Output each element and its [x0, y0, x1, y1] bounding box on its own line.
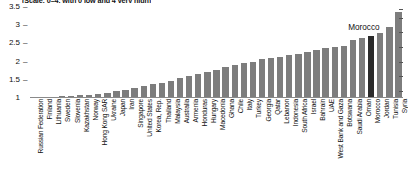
bar-tunisia: [386, 27, 392, 98]
bar-ghana: [222, 67, 228, 98]
annotation-morocco: Morocco: [348, 23, 379, 32]
y-axis-tick-mark: –: [23, 57, 27, 66]
x-axis-label: Hong Kong SAR: [101, 99, 108, 145]
plot-area: [30, 7, 403, 98]
x-axis-label: Qatar: [274, 99, 281, 115]
bar-honduras: [195, 74, 201, 98]
x-axis-label: United States: [146, 99, 153, 137]
y-axis-tick-mark: –: [23, 38, 27, 47]
y-axis-tick-label: 3: [0, 20, 20, 29]
bar-south-africa: [295, 54, 301, 98]
y-axis-tick-mark: –: [23, 20, 27, 29]
y-axis-tick-mark: –: [23, 2, 27, 11]
bar-qatar: [268, 58, 274, 98]
x-axis-label: Iran: [128, 99, 135, 110]
right-axis-tick-mark: [399, 91, 403, 92]
bar-bahrain: [313, 50, 319, 98]
bar-lebanon: [277, 57, 283, 98]
bar-jordan: [377, 33, 383, 98]
x-axis-label: South Africa: [301, 99, 308, 133]
x-axis-label: Singapore: [137, 99, 144, 128]
bar-armenia: [186, 76, 192, 98]
bar-chile: [232, 65, 238, 98]
right-axis-tick-mark: [399, 18, 403, 19]
x-axis-label: Botswana: [346, 99, 353, 127]
x-axis-label: Finland: [46, 99, 53, 120]
bar-thailand: [159, 83, 165, 98]
x-axis-label: Indonesia: [292, 99, 299, 126]
y-axis-tick-label: 2: [0, 57, 20, 66]
x-axis-label: UAE: [328, 99, 335, 112]
x-axis-label: Sweden: [64, 99, 71, 122]
bar-australia: [177, 78, 183, 98]
bar-israel: [304, 52, 310, 98]
x-axis-label: Macedonia: [219, 99, 226, 130]
x-axis-label: Ghana: [228, 99, 235, 118]
x-axis-label: Syria: [401, 99, 408, 113]
x-axis-label: Hungary: [210, 99, 217, 123]
x-axis-label: Bahrain: [319, 99, 326, 121]
right-axis-tick-mark: [399, 62, 403, 63]
x-axis-label: Turkey: [255, 99, 262, 118]
x-axis-label: West Bank and Gaza: [337, 99, 344, 159]
x-axis-label: Oman: [365, 99, 372, 116]
x-axis-label: Chile: [237, 99, 244, 113]
x-axis-label: Japan: [119, 99, 126, 116]
right-axis-tick-mark: [399, 9, 403, 10]
x-axis-label: Kazakhstan: [83, 99, 90, 132]
bar-korea-rep-: [150, 84, 156, 98]
x-axis-label: Italy: [246, 99, 253, 110]
right-axis-tick-mark: [399, 32, 403, 33]
right-axis-tick-mark: [399, 47, 403, 48]
x-axis-label: Russian Federation: [37, 99, 44, 153]
x-axis-label: Armenia: [192, 99, 199, 123]
bar-morocco: [368, 36, 374, 98]
bar-indonesia: [286, 55, 292, 98]
y-axis-tick-label: 3.5: [0, 2, 20, 11]
y-axis-tick-mark: –: [23, 75, 27, 84]
bar-oman: [359, 38, 365, 98]
x-axis-label: Tunisia: [392, 99, 399, 119]
chart-subtitle: (Scale; 0–4, with 0 low and 4 very high): [22, 0, 151, 3]
x-axis-label: Norway: [92, 99, 99, 120]
x-axis-label: Saudi Arabia: [356, 99, 363, 135]
y-axis-tick-label: 1.5: [0, 75, 20, 84]
bar-turkey: [250, 62, 256, 98]
x-axis-label: Korea, Rep.: [155, 99, 162, 133]
x-axis-label: Lebanon: [283, 99, 290, 124]
bar-syria: [395, 12, 401, 98]
y-axis-tick-label: 2.5: [0, 38, 20, 47]
x-axis-label: Thailand: [165, 99, 172, 123]
x-axis-label: Malaysia: [174, 99, 181, 124]
x-axis-label: Australia: [183, 99, 190, 123]
bar-saudi-arabia: [350, 40, 356, 98]
bar-uae: [322, 48, 328, 98]
x-axis-label: Georgia: [265, 99, 272, 121]
x-axis-labels: Russian FederationFinlandLithuaniaSweden…: [30, 99, 403, 176]
bar-georgia: [259, 59, 265, 98]
bar-hungary: [204, 72, 210, 98]
x-axis-label: Israel: [310, 99, 317, 114]
x-axis-label: Ukraine: [110, 99, 117, 121]
bar-malaysia: [168, 81, 174, 98]
x-axis-label: Slovenia: [74, 99, 81, 123]
x-axis-label: Honduras: [201, 99, 208, 126]
y-axis-tick-label: 1: [0, 93, 20, 102]
bar-italy: [241, 63, 247, 98]
bar-botswana: [341, 46, 347, 98]
bar-macedonia: [213, 70, 219, 98]
bar-west-bank-and-gaza: [332, 47, 338, 98]
x-axis-label: Lithuania: [55, 99, 62, 124]
x-axis-label: Morocco: [374, 99, 381, 123]
right-axis-tick-mark: [399, 76, 403, 77]
x-axis-label: Jordan: [383, 99, 390, 118]
